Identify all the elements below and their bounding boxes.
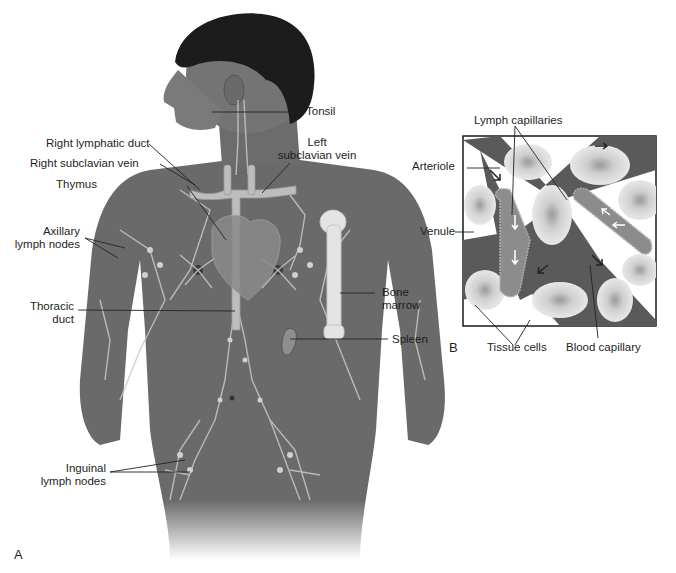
label-right-subclavian-vein: Right subclavian vein	[30, 157, 139, 170]
panel-letter-b: B	[449, 340, 458, 355]
label-right-lymphatic-duct: Right lymphatic duct	[46, 137, 150, 150]
label-tissue-cells: Tissue cells	[487, 341, 547, 354]
capillary-inset	[463, 136, 662, 326]
label-inguinal-lymph-nodes: Inguinal lymph nodes	[20, 462, 106, 488]
label-tonsil: Tonsil	[306, 105, 335, 118]
panel-letter-a: A	[14, 547, 23, 562]
label-lymph-capillaries: Lymph capillaries	[474, 114, 562, 127]
label-blood-capillary: Blood capillary	[566, 341, 641, 354]
label-venule: Venule	[420, 225, 455, 238]
lymphatic-system-figure: Tonsil Right lymphatic duct Right subcla…	[0, 0, 676, 573]
label-left-subclavian-vein: Left subclavian vein	[262, 136, 372, 162]
label-arteriole: Arteriole	[412, 160, 455, 173]
label-bone-marrow: Bone marrow	[382, 286, 420, 312]
label-axillary-lymph-nodes: Axillary lymph nodes	[8, 225, 80, 251]
label-thymus: Thymus	[56, 178, 97, 191]
label-thoracic-duct: Thoracic duct	[10, 300, 74, 326]
label-spleen: Spleen	[392, 333, 428, 346]
